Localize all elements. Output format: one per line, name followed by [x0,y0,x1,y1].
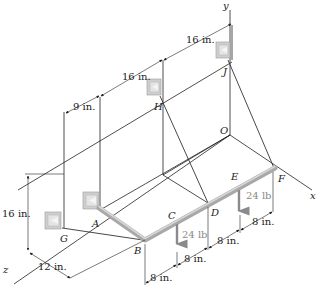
dim-label-8-1: 8 in. [150,272,172,283]
point-label-D: D [210,207,219,218]
dim-label-8-4: 8 in. [252,216,274,227]
point-label-H: H [153,101,163,112]
y-axis-label: y [222,0,229,11]
dim-label-top-16: 16 in. [186,34,215,45]
cable-HD [160,96,208,203]
bracket-J [216,42,230,58]
point-label-A: A [91,218,99,229]
x-axis [230,135,312,190]
point-label-G: G [60,233,68,244]
dim-label-8-3: 8 in. [217,235,239,246]
bracket-A [83,192,99,209]
dim-label-height-16: 16 in. [2,208,31,219]
dim-label-12: 12 in. [38,261,67,272]
bracket-G [45,212,61,229]
reference-lines [18,25,232,228]
point-label-J: J [221,66,228,77]
point-label-C: C [168,210,176,221]
point-label-F: F [277,173,286,184]
x-axis-label: x [310,190,316,201]
load-label-E: 24 lb [246,190,272,201]
dim-label-9: 9 in. [73,101,95,112]
origin-label: O [220,125,228,136]
point-label-E: E [230,171,239,182]
statics-figure: y x z O J H A G B C D E F 24 lb 24 lb 16… [0,0,318,296]
cable-JF [228,60,274,168]
dim-label-8-2: 8 in. [184,253,206,264]
z-axis-label: z [2,264,9,275]
dim-label-mid-16: 16 in. [122,71,151,82]
point-label-B: B [133,245,141,256]
load-label-C: 24 lb [182,229,208,240]
